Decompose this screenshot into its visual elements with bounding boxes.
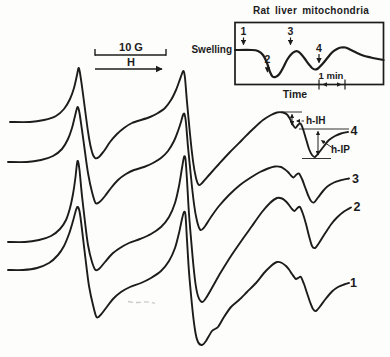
inset-event-arrows <box>244 38 320 73</box>
spectrum-label-4: 4 <box>351 125 358 138</box>
inset-time-scale-label: 1 min <box>310 71 352 81</box>
spectrum-label-1: 1 <box>350 277 357 290</box>
h-ip-label: h-IP <box>331 145 350 155</box>
spectrum-label-3: 3 <box>352 172 359 185</box>
inset-y-axis-label: Swelling <box>176 45 232 55</box>
h-ih-label: h-IH <box>306 116 325 126</box>
inset-event-label-1: 1 <box>241 26 247 37</box>
spectra-traces <box>8 47 384 345</box>
inset-x-axis-label: Time <box>263 89 327 100</box>
print-artifact <box>128 302 155 304</box>
inset-event-label-4: 4 <box>316 43 322 54</box>
inset-event-label-2: 2 <box>265 54 271 65</box>
inset-event-label-3: 3 <box>288 26 294 37</box>
spectrum-label-2: 2 <box>354 201 361 214</box>
spectrum-1 <box>8 207 349 345</box>
field-axis-label: H <box>100 57 162 68</box>
epr-swelling-figure: 10 G H Rat liver mitochondria Swelling T… <box>0 0 390 357</box>
field-scale-label: 10 G <box>100 42 162 53</box>
inset-title: Rat liver mitochondria <box>233 6 389 16</box>
